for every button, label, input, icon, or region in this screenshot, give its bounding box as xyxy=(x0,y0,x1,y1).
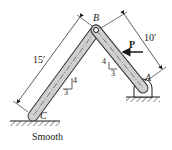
slope-run-ab: 3 xyxy=(111,70,115,78)
dimension-label-ab: 10′ xyxy=(144,33,156,43)
dimension-label-bc: 15′ xyxy=(33,55,45,65)
member-bc xyxy=(33,30,96,116)
point-label-c: C xyxy=(40,111,47,121)
slope-rise-bc: 4 xyxy=(73,77,77,85)
slope-run-bc: 3 xyxy=(64,89,68,97)
slope-rise-ab: 4 xyxy=(102,58,106,66)
ground-c xyxy=(10,121,60,126)
point-label-a: A xyxy=(145,73,151,83)
load-label-p: P xyxy=(129,40,135,50)
pin-b xyxy=(94,28,99,33)
point-label-b: B xyxy=(93,13,99,23)
support-label-smooth: Smooth xyxy=(32,132,63,142)
ground-a xyxy=(126,97,160,102)
